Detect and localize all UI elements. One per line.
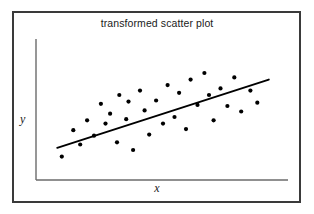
data-point — [138, 89, 142, 93]
data-point — [60, 155, 64, 159]
data-point — [232, 75, 236, 79]
data-point — [92, 134, 96, 138]
data-point — [108, 112, 112, 116]
data-point — [239, 109, 243, 113]
scatter-plot-figure: transformed scatter plot y x — [0, 0, 314, 214]
data-point — [166, 83, 170, 87]
data-point — [218, 86, 222, 90]
data-point — [143, 108, 147, 112]
data-point — [177, 91, 181, 95]
data-point — [184, 127, 188, 131]
data-point — [255, 101, 259, 105]
data-point — [248, 89, 252, 93]
trend-line-segment — [57, 80, 269, 148]
data-point — [172, 115, 176, 119]
data-point — [78, 142, 82, 146]
data-point — [131, 148, 135, 152]
data-point — [207, 93, 211, 97]
data-point — [202, 71, 206, 75]
data-point — [154, 98, 158, 102]
data-point — [225, 104, 229, 108]
data-point — [124, 117, 128, 121]
data-point — [147, 133, 151, 137]
data-point — [117, 93, 121, 97]
data-point — [99, 102, 103, 106]
data-point — [85, 118, 89, 122]
data-point — [212, 118, 216, 122]
x-axis-label: x — [0, 181, 314, 196]
axes — [36, 39, 288, 180]
trend-line — [57, 80, 269, 148]
data-point — [189, 78, 193, 82]
data-point — [71, 128, 75, 132]
data-point — [126, 100, 130, 104]
data-point — [195, 103, 199, 107]
data-point — [115, 140, 119, 144]
data-point — [161, 122, 165, 126]
data-point — [103, 122, 107, 126]
y-axis-label: y — [20, 112, 25, 127]
